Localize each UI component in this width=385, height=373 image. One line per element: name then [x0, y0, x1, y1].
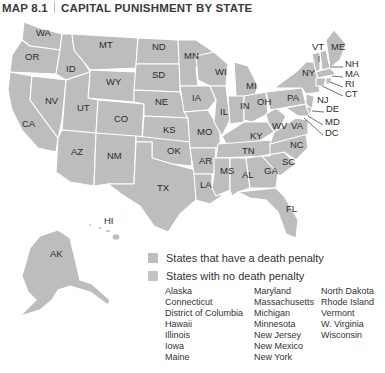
state-label-ks: KS — [163, 125, 176, 135]
state-label-ca: CA — [22, 119, 35, 129]
state-AZ[interactable] — [56, 130, 96, 186]
state-label-co: CO — [114, 114, 128, 124]
list-item: District of Columbia — [165, 308, 254, 319]
state-label-oh: OH — [257, 97, 271, 107]
state-label-hi: HI — [104, 216, 114, 226]
callout-label-de: DE — [326, 104, 339, 114]
state-label-va: VA — [291, 121, 303, 131]
callout-label-me: ME — [331, 42, 345, 52]
state-label-ne: NE — [155, 97, 168, 107]
callout-label-dc: DC — [325, 128, 339, 138]
state-label-fl: FL — [286, 204, 297, 214]
legend-no-death-penalty-label: States with no death penalty — [166, 270, 304, 282]
state-CT[interactable] — [316, 78, 326, 86]
state-label-mn: MN — [184, 51, 199, 61]
list-item: Iowa — [165, 341, 254, 352]
list-item: Minnesota — [254, 319, 321, 330]
list-item: New Mexico — [254, 341, 321, 352]
state-label-nc: NC — [290, 140, 304, 150]
state-label-nv: NV — [45, 96, 58, 106]
state-label-in: IN — [240, 101, 250, 111]
state-HI[interactable] — [88, 224, 120, 240]
state-label-ny: NY — [302, 68, 315, 78]
state-label-nm: NM — [107, 151, 122, 161]
list-item: Alaska — [165, 286, 254, 297]
list-item: Massachusetts — [254, 297, 321, 308]
state-label-il: IL — [220, 107, 228, 117]
legend-death-penalty: States that have a death penalty — [148, 252, 324, 264]
state-label-wi: WI — [215, 67, 227, 77]
callout-label-ct: CT — [345, 89, 358, 99]
state-label-sd: SD — [152, 70, 165, 80]
state-label-tn: TN — [242, 146, 255, 156]
state-label-mt: MT — [99, 40, 113, 50]
list-item: New York — [254, 352, 321, 363]
state-label-ok: OK — [167, 146, 181, 156]
state-label-mo: MO — [197, 127, 212, 137]
state-label-nd: ND — [152, 42, 166, 52]
state-label-pa: PA — [287, 93, 299, 103]
state-RI[interactable] — [326, 78, 332, 84]
state-label-tx: TX — [157, 183, 169, 193]
list-item: New Jersey — [254, 330, 321, 341]
list-item: Rhode Island — [321, 297, 374, 308]
callout-label-md: MD — [325, 117, 340, 127]
state-label-ar: AR — [199, 156, 212, 166]
legend-no-death-penalty: States with no death penalty — [148, 270, 304, 282]
state-label-wv: WV — [272, 121, 287, 131]
list-item: Maryland — [254, 286, 321, 297]
callout-label-vt: VT — [312, 42, 324, 52]
state-label-ia: IA — [192, 93, 201, 103]
state-label-or: OR — [25, 52, 39, 62]
state-label-az: AZ — [71, 147, 83, 157]
no-death-penalty-list: Alaska Connecticut District of Columbia … — [165, 286, 374, 363]
state-label-ms: MS — [220, 166, 234, 176]
list-item: W. Virginia — [321, 319, 374, 330]
list-column-2: Maryland Massachusetts Michigan Minnesot… — [254, 286, 321, 363]
state-label-mi: MI — [246, 81, 257, 91]
state-AK[interactable] — [20, 230, 110, 316]
state-label-wy: WY — [106, 77, 121, 87]
state-label-ky: KY — [250, 131, 263, 141]
swatch-death-penalty — [148, 253, 158, 263]
legend-death-penalty-label: States that have a death penalty — [166, 252, 324, 264]
state-label-al: AL — [242, 170, 254, 180]
state-label-sc: SC — [282, 157, 295, 167]
state-label-id: ID — [66, 64, 76, 74]
list-item: Connecticut — [165, 297, 254, 308]
state-label-ga: GA — [264, 166, 278, 176]
state-label-wa: WA — [36, 28, 51, 38]
list-item: Illinois — [165, 330, 254, 341]
list-item: Vermont — [321, 308, 374, 319]
state-MS[interactable] — [212, 158, 230, 196]
list-item: Michigan — [254, 308, 321, 319]
list-item: Hawaii — [165, 319, 254, 330]
swatch-no-death-penalty — [148, 271, 158, 281]
state-label-ut: UT — [77, 103, 90, 113]
state-label-la: LA — [200, 180, 212, 190]
list-item: Wisconsin — [321, 330, 374, 341]
list-item: North Dakota — [321, 286, 374, 297]
state-label-ak: AK — [50, 249, 63, 259]
list-item: Maine — [165, 352, 254, 363]
list-column-3: North Dakota Rhode Island Vermont W. Vir… — [321, 286, 374, 363]
list-column-1: Alaska Connecticut District of Columbia … — [165, 286, 254, 363]
